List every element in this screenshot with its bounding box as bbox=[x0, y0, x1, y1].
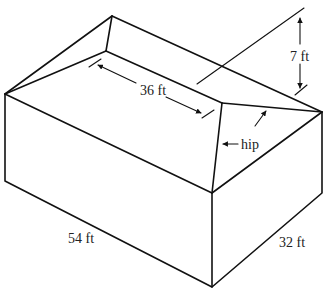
hip-roof-diagram: 36 ft 7 ft hip 54 ft 32 ft bbox=[0, 0, 334, 300]
roof bbox=[5, 16, 322, 193]
side-top-edge bbox=[212, 112, 322, 193]
ridge-tick-right bbox=[202, 110, 214, 118]
roof-height-label: 7 ft bbox=[290, 49, 309, 64]
hip-arrow-upper bbox=[255, 111, 266, 126]
height-dimension: 7 ft bbox=[197, 8, 309, 95]
back-hip bbox=[106, 16, 112, 51]
width-label: 32 ft bbox=[279, 235, 305, 250]
hip-label: hip bbox=[241, 137, 259, 152]
height-extension-line bbox=[197, 8, 304, 84]
height-tick bbox=[295, 85, 307, 95]
front-hip bbox=[212, 103, 222, 193]
ridge-dimension: 36 ft bbox=[89, 59, 214, 118]
ridge-arrow-left bbox=[98, 65, 136, 83]
ridge-length-label: 36 ft bbox=[140, 83, 166, 98]
ridge-arrow-right bbox=[166, 97, 201, 113]
front-top-edge bbox=[5, 94, 212, 193]
hip-callout: hip bbox=[223, 111, 266, 152]
building-box bbox=[5, 94, 322, 287]
length-label: 54 ft bbox=[68, 231, 94, 246]
wall-bottom-edges bbox=[5, 94, 322, 287]
